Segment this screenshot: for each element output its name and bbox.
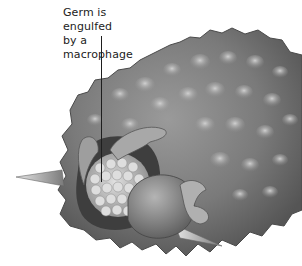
callout-line-1: Germ is engulfed — [63, 6, 153, 34]
callout-label: Germ is engulfed by a macrophage — [63, 6, 153, 62]
callout-leader-line — [101, 36, 102, 182]
callout-line-2: by a macrophage — [63, 34, 153, 62]
pseudopod-spike-left — [16, 170, 64, 186]
